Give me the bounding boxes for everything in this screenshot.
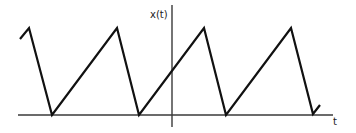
- signal-waveform: [20, 28, 320, 115]
- signal-diagram: x(t) t: [0, 0, 356, 133]
- y-axis-label: x(t): [150, 9, 168, 20]
- x-axis-label: t: [333, 116, 337, 127]
